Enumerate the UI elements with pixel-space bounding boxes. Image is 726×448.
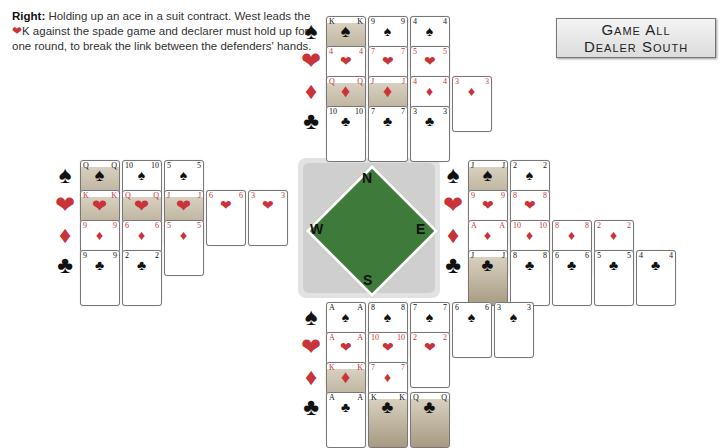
diamonds-pip-icon: ♦ (165, 227, 203, 243)
diamonds-pip-icon: ♦ (553, 227, 591, 243)
caption: Right: Holding up an ace in a suit contr… (12, 9, 312, 54)
diamonds-pip-icon: ♦ (327, 367, 365, 388)
caption-lead: Right: (12, 10, 45, 22)
hearts-icon: ❤ (298, 46, 324, 76)
clubs-pip-icon: ♣ (411, 397, 449, 418)
spades-pip-icon: ♠ (369, 309, 407, 325)
diamonds-pip-icon: ♦ (595, 227, 633, 243)
clubs-pip-icon: ♣ (511, 257, 549, 273)
spades-pip-icon: ♠ (327, 21, 365, 42)
hearts-pip-icon: ❤ (327, 339, 365, 355)
spades-pip-icon: ♠ (123, 167, 161, 183)
hearts-pip-icon: ❤ (369, 53, 407, 69)
playing-card: KK♣ (368, 392, 408, 448)
hearts-pip-icon: ❤ (511, 197, 549, 213)
south-clubs-cards: AA♣KK♣QQ♣ (326, 392, 450, 448)
diamonds-pip-icon: ♦ (453, 83, 491, 99)
hearts-pip-icon: ❤ (81, 195, 119, 217)
playing-card: QQ♣ (410, 392, 450, 448)
playing-card: 66♠ (452, 302, 492, 358)
playing-card: AA♣ (326, 392, 366, 448)
clubs-pip-icon: ♣ (327, 399, 365, 415)
west-clubs-cards: 99♣22♣ (80, 250, 162, 306)
hearts-icon: ❤ (298, 332, 324, 362)
diamonds-icon: ♦ (298, 76, 324, 106)
clubs-icon: ♣ (52, 250, 78, 280)
compass-east: E (416, 221, 425, 237)
playing-card: 88♣ (510, 250, 550, 306)
playing-card: 33♣ (410, 106, 450, 162)
playing-card: JJ♣ (468, 250, 508, 306)
diamonds-pip-icon: ♦ (369, 369, 407, 385)
spades-pip-icon: ♠ (327, 309, 365, 325)
hearts-pip-icon: ❤ (249, 197, 287, 213)
east-clubs-cards: JJ♣88♣66♣55♣44♣ (468, 250, 676, 306)
diamonds-pip-icon: ♦ (369, 81, 407, 102)
vulnerability-dealer-badge: Game All Dealer South (556, 18, 716, 58)
spades-pip-icon: ♠ (165, 167, 203, 183)
caption-text-2: K against the spade game and declarer mu… (12, 25, 312, 52)
clubs-icon: ♣ (440, 250, 466, 280)
clubs-pip-icon: ♣ (637, 257, 675, 273)
hearts-pip-icon: ❤ (207, 197, 245, 213)
playing-card: 55♦ (164, 220, 204, 276)
hearts-pip-icon: ❤ (327, 53, 365, 69)
clubs-icon: ♣ (298, 392, 324, 422)
playing-card: 99♣ (80, 250, 120, 306)
diamonds-pip-icon: ♦ (411, 83, 449, 99)
clubs-pip-icon: ♣ (327, 113, 365, 129)
playing-card: 66♣ (552, 250, 592, 306)
spades-icon: ♠ (52, 160, 78, 190)
diamonds-icon: ♦ (52, 220, 78, 250)
clubs-pip-icon: ♣ (469, 255, 507, 276)
spades-icon: ♠ (298, 302, 324, 332)
playing-card: 33♠ (494, 302, 534, 358)
compass-north: N (362, 170, 372, 186)
playing-card: 44♣ (636, 250, 676, 306)
compass-south: S (363, 272, 372, 288)
spades-pip-icon: ♠ (511, 167, 549, 183)
dealer-label: Dealer South (584, 38, 688, 55)
hearts-pip-icon: ❤ (165, 195, 203, 217)
diamonds-icon: ♦ (440, 220, 466, 250)
clubs-icon: ♣ (298, 106, 324, 136)
diamonds-pip-icon: ♦ (511, 227, 549, 243)
north-clubs-cards: 1010♣77♣33♣ (326, 106, 450, 162)
diamonds-pip-icon: ♦ (123, 227, 161, 243)
spades-pip-icon: ♠ (411, 309, 449, 325)
hearts-pip-icon: ❤ (411, 339, 449, 355)
caption-text-1: Holding up an ace in a suit contract. We… (45, 10, 310, 22)
playing-card: 22❤ (410, 332, 450, 388)
hearts-pip-icon: ❤ (369, 339, 407, 355)
diamonds-icon: ♦ (298, 362, 324, 392)
diamonds-pip-icon: ♦ (327, 81, 365, 102)
playing-card: 22♣ (122, 250, 162, 306)
playing-card: 33❤ (248, 190, 288, 246)
spades-pip-icon: ♠ (495, 309, 533, 325)
heart-icon: ❤ (12, 25, 22, 37)
hearts-pip-icon: ❤ (469, 197, 507, 213)
playing-card: 66❤ (206, 190, 246, 246)
hearts-icon: ❤ (52, 190, 78, 220)
spades-pip-icon: ♠ (369, 23, 407, 39)
clubs-pip-icon: ♣ (123, 257, 161, 273)
hearts-pip-icon: ❤ (123, 195, 161, 217)
diamonds-pip-icon: ♦ (469, 227, 507, 243)
vulnerability-label: Game All (601, 21, 670, 38)
compass: N S W E (298, 158, 440, 298)
spades-pip-icon: ♠ (411, 23, 449, 39)
diamonds-pip-icon: ♦ (81, 227, 119, 243)
clubs-pip-icon: ♣ (81, 257, 119, 273)
playing-card: 55♣ (594, 250, 634, 306)
spades-pip-icon: ♠ (453, 309, 491, 325)
spades-pip-icon: ♠ (81, 165, 119, 186)
clubs-pip-icon: ♣ (411, 113, 449, 129)
compass-west: W (310, 221, 323, 237)
spades-icon: ♠ (298, 16, 324, 46)
clubs-pip-icon: ♣ (369, 397, 407, 418)
playing-card: 77♣ (368, 106, 408, 162)
clubs-pip-icon: ♣ (369, 113, 407, 129)
playing-card: 1010♣ (326, 106, 366, 162)
clubs-pip-icon: ♣ (595, 257, 633, 273)
playing-card: 33♦ (452, 76, 492, 132)
